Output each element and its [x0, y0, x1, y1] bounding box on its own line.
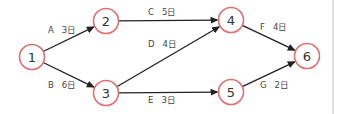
edges-layer: [43, 20, 295, 93]
edge-label-g: G2日: [260, 80, 289, 90]
activity-name: B: [48, 80, 54, 90]
node-number: 5: [227, 85, 235, 100]
edge-label-a: A3日: [48, 25, 76, 35]
edge-label-c: C5日: [148, 7, 176, 17]
node-number: 4: [227, 13, 235, 28]
edge-label-e: E3日: [148, 95, 176, 105]
node-number: 3: [102, 86, 110, 101]
edge-arrow-e: [119, 92, 218, 93]
edge-label-d: D4日: [148, 39, 177, 49]
activity-duration: 3日: [161, 95, 175, 105]
activity-name: A: [48, 25, 54, 35]
node-6: 6: [295, 44, 320, 69]
edge-arrow-c: [119, 20, 218, 21]
activity-name: C: [148, 7, 154, 17]
activity-name: F: [260, 22, 265, 32]
activity-duration: 2日: [275, 80, 289, 90]
edge-arrow-d: [117, 27, 220, 87]
activity-duration: 5日: [162, 7, 176, 17]
activity-name: G: [260, 80, 267, 90]
activity-name: E: [148, 95, 153, 105]
node-1: 1: [20, 45, 45, 70]
node-5: 5: [219, 80, 244, 105]
activity-duration: 3日: [62, 25, 76, 35]
activity-duration: 6日: [62, 80, 76, 90]
node-number: 1: [28, 50, 36, 65]
node-3: 3: [94, 81, 119, 106]
node-number: 2: [102, 14, 110, 29]
activity-duration: 4日: [163, 39, 177, 49]
edge-label-b: B6日: [48, 80, 76, 90]
network-diagram: A3日B6日C5日D4日E3日F4日G2日 123456: [0, 0, 337, 114]
edge-label-f: F4日: [260, 22, 287, 32]
node-2: 2: [94, 9, 119, 34]
node-number: 6: [303, 49, 311, 64]
activity-name: D: [148, 39, 155, 49]
activity-duration: 4日: [273, 22, 287, 32]
node-4: 4: [219, 8, 244, 33]
